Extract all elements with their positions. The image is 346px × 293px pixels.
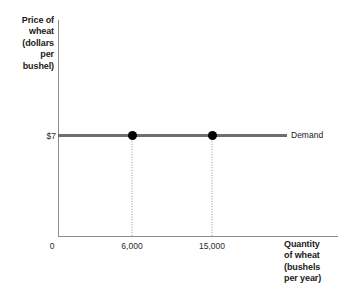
y-axis-title-line-1: Price of — [0, 15, 54, 26]
data-point-6000 — [128, 131, 137, 140]
x-tick-label-6000: 6,000 — [107, 241, 157, 251]
x-axis-title: Quantity of wheat (bushels per year) — [284, 239, 346, 285]
x-axis-line — [58, 236, 338, 237]
x-tick-label-origin: 0 — [42, 241, 62, 251]
y-axis-title-line-3: (dollars — [0, 38, 54, 49]
y-axis-title: Price of wheat (dollars per bushel) — [0, 15, 54, 72]
x-axis-title-line-1: Quantity — [284, 239, 346, 250]
y-axis-title-line-5: bushel) — [0, 61, 54, 72]
y-axis-line — [58, 20, 59, 237]
legend-label-demand: Demand — [291, 130, 323, 140]
demand-line — [58, 134, 287, 137]
x-axis-title-line-2: of wheat — [284, 250, 346, 261]
x-tick-label-15000: 15,000 — [187, 241, 237, 251]
demand-curve-chart: Price of wheat (dollars per bushel) Quan… — [0, 0, 346, 293]
x-axis-title-line-4: per year) — [284, 273, 346, 284]
y-axis-title-line-4: per — [0, 49, 54, 60]
y-axis-title-line-2: wheat — [0, 26, 54, 37]
y-tick-label-7: $7 — [16, 131, 56, 141]
x-axis-title-line-3: (bushels — [284, 262, 346, 273]
data-point-15000 — [208, 131, 217, 140]
